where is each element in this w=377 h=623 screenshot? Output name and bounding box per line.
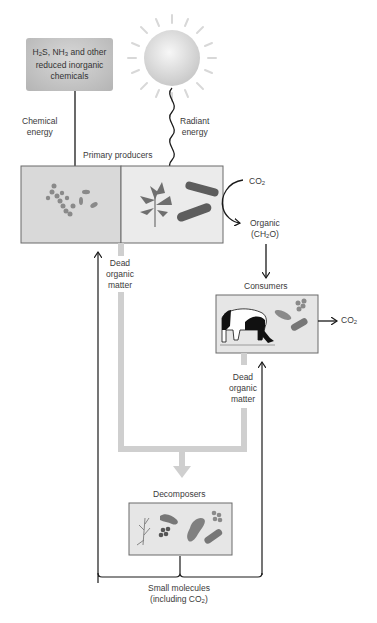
ecosystem-flow-diagram [0, 0, 377, 623]
inorganic-chemicals-box: H2S, NH3 and other reduced inorganic che… [26, 38, 113, 91]
chem-line2: reduced inorganic [33, 60, 107, 71]
decomposers-label: Decomposers [153, 489, 205, 500]
small-molecules-label: Small molecules (including CO2) [148, 583, 210, 607]
radiant-energy-arrow [169, 88, 174, 174]
co2-fixation-arrow [222, 180, 243, 223]
small-molecules-bracket [98, 556, 262, 583]
dead-organic-matter-flow [118, 243, 247, 478]
chem-text: and other [68, 47, 106, 57]
co2-right-label: CO2 [341, 315, 357, 328]
co2-top-label: CO2 [249, 176, 265, 189]
organic-label: Organic (CH2O) [250, 218, 280, 242]
primary-producers-box [21, 166, 223, 243]
primary-producers-label: Primary producers [83, 150, 152, 161]
chem-line3: chemicals [33, 71, 107, 82]
dead-organic-matter-label-right: Dead organic matter [229, 372, 257, 405]
radiant-energy-label: Radiant energy [180, 116, 209, 138]
dead-organic-matter-label-left: Dead organic matter [106, 258, 134, 291]
chem-text: S, NH [42, 47, 65, 57]
chemical-energy-label: Chemical energy [22, 116, 57, 138]
consumers-label: Consumers [244, 281, 287, 292]
